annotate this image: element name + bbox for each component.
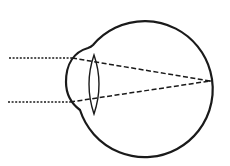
- focal-point: [209, 80, 211, 82]
- eye-diagram: [0, 0, 230, 166]
- incoming-rays: [8, 58, 72, 102]
- lower-refracted-ray: [70, 81, 210, 102]
- eyeball-outline: [66, 21, 213, 157]
- lens: [89, 55, 99, 114]
